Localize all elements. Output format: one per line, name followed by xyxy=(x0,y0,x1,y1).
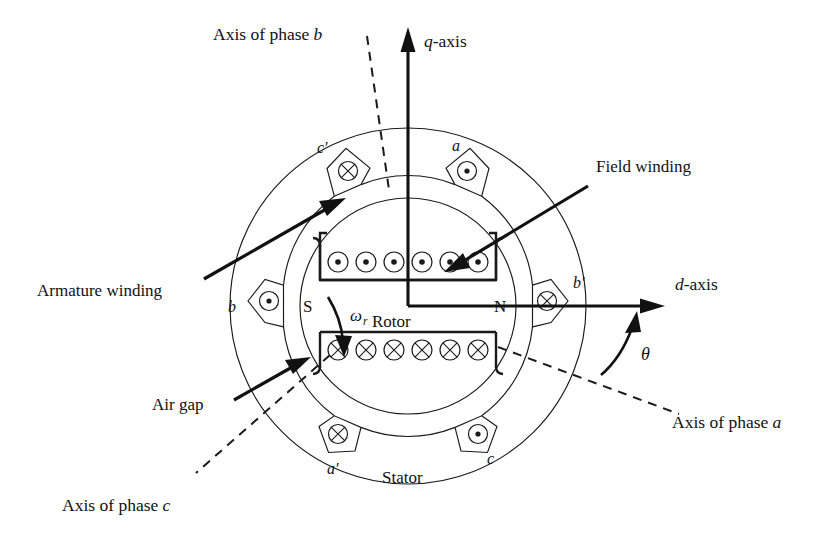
d-axis-arrowhead xyxy=(640,299,665,314)
field-conductor-out-2 xyxy=(356,252,376,272)
theta-arc xyxy=(601,328,632,375)
omega-r-arc xyxy=(328,297,343,341)
air-gap-leader xyxy=(234,366,294,400)
field-conductor-out-4 xyxy=(412,252,432,272)
q-axis-arrowhead xyxy=(401,27,416,52)
theta-arrowhead xyxy=(625,311,641,333)
stator-slot-c-current-out-dot xyxy=(475,431,480,436)
axis-of-phase-a-label: Axis of phase a xyxy=(672,412,782,432)
stator-slot-c-label: c xyxy=(487,450,494,467)
figure-canvas: a b′ c a′ xyxy=(0,0,837,538)
field-conductor-in-3 xyxy=(384,340,404,360)
rotor-field-slot-top-left-flare xyxy=(313,238,320,246)
stator-slot-c: c xyxy=(455,416,497,467)
rotor-label: Rotor xyxy=(372,312,411,331)
bore-arc-4 xyxy=(284,327,335,416)
stator-slot-b-prime: b′ xyxy=(533,274,586,327)
stator-slot-c-prime-label: c′ xyxy=(317,139,328,156)
field-conductor-in-6 xyxy=(468,340,488,360)
axis-of-phase-c-label: Axis of phase c xyxy=(62,495,171,515)
bore-arc-6 xyxy=(482,327,533,416)
field-conductor-out-3 xyxy=(384,252,404,272)
stator-label: Stator xyxy=(382,468,423,487)
rotor-field-conductors-bottom xyxy=(328,340,488,360)
q-axis-label: q-axis xyxy=(424,31,467,51)
stator-slot-a-label: a xyxy=(452,137,460,154)
air-gap-arrowhead xyxy=(285,357,311,374)
axis-of-phase-c-line xyxy=(196,355,330,473)
stator-slot-b-prime-label: b′ xyxy=(573,274,585,291)
stator-slot-a-current-out-dot xyxy=(464,168,469,173)
axis-of-phase-b-line xyxy=(367,36,389,190)
stator-slot-b-current-out-dot xyxy=(266,298,271,303)
pole-south-label: S xyxy=(303,297,312,316)
rotor-angle-theta: θ xyxy=(601,311,650,375)
field-conductor-in-5 xyxy=(440,340,460,360)
stator-slot-b-label: b xyxy=(228,298,236,315)
field-conductor-out-1 xyxy=(328,252,348,272)
callout-armature-winding: Armature winding xyxy=(37,198,346,300)
synchronous-machine-diagram: a b′ c a′ xyxy=(0,0,837,538)
theta-label: θ xyxy=(641,344,650,364)
stator-slot-a: a xyxy=(446,137,489,196)
callout-air-gap: Air gap xyxy=(152,357,311,414)
stator-slot-c-prime: c′ xyxy=(317,139,370,196)
field-conductor-in-2 xyxy=(356,340,376,360)
rotor-field-slot-bottom-right-flare xyxy=(496,366,503,374)
armature-winding-leader xyxy=(204,208,328,279)
air-gap-label: Air gap xyxy=(152,395,203,414)
omega-r-label: ωr xyxy=(350,306,368,327)
armature-winding-label: Armature winding xyxy=(37,281,163,300)
axis-of-phase-a: Axis of phase a xyxy=(498,347,782,432)
axis-of-phase-c: Axis of phase c xyxy=(62,355,330,515)
stator-slot-a-prime: a′ xyxy=(319,416,361,477)
bore-arc-5 xyxy=(361,427,455,436)
armature-winding-arrowhead xyxy=(319,198,346,216)
d-axis-label: d-axis xyxy=(675,274,718,294)
field-winding-label: Field winding xyxy=(596,157,691,176)
field-winding-leader xyxy=(462,186,588,262)
bore-arc-1 xyxy=(482,196,533,285)
stator-slot-b: b xyxy=(228,280,284,327)
stator-slot-a-prime-label: a′ xyxy=(327,460,339,477)
field-conductor-in-4 xyxy=(412,340,432,360)
axis-of-phase-b-label: Axis of phase b xyxy=(213,24,323,44)
